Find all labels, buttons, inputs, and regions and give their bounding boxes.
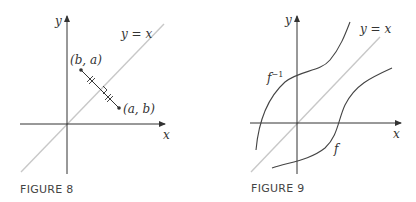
curve-f-label: f (333, 142, 341, 156)
right-angle-icon (103, 86, 107, 94)
point-a-b (117, 106, 121, 110)
figure-9: y x y = x f−1 f (250, 13, 401, 174)
x-axis-label: x (393, 127, 400, 141)
figure-8: y x y = x (b, a) (a, b) (20, 14, 170, 174)
x-axis-label: x (163, 128, 170, 142)
line-label: y = x (359, 22, 391, 36)
point-b-a (79, 68, 83, 72)
point-a-b-label: (a, b) (123, 102, 155, 116)
figures-canvas: y x y = x (b, a) (a, b) y x y = x f−1 (0, 0, 416, 202)
figure-8-caption: FIGURE 8 (20, 183, 74, 196)
curve-f (272, 68, 392, 168)
y-axis-label: y (54, 14, 62, 28)
y-axis-label: y (284, 13, 292, 27)
diagonal-line-y-equals-x (251, 37, 380, 172)
figure-9-caption: FIGURE 9 (251, 182, 305, 195)
curve-f-inverse-label: f−1 (266, 70, 283, 85)
line-label: y = x (120, 27, 152, 41)
point-b-a-label: (b, a) (70, 53, 102, 67)
diagonal-line-y-equals-x (21, 24, 164, 172)
